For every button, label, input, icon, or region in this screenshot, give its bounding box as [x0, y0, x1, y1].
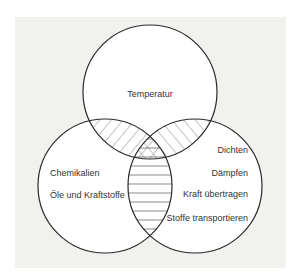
label-kraft-uebertragen: Kraft übertragen — [183, 189, 248, 199]
label-stoffe-transportieren: Stoffe transportieren — [167, 213, 248, 223]
label-dichten: Dichten — [217, 145, 248, 155]
label-daempfen: Dämpfen — [211, 168, 248, 178]
label-chemikalien: Chemikalien — [50, 168, 100, 178]
label-temperatur: Temperatur — [127, 89, 173, 99]
venn-diagram: Temperatur Chemikalien Öle und Kraftstof… — [0, 0, 301, 276]
label-oele-kraftstoffe: Öle und Kraftstoffe — [50, 190, 125, 200]
